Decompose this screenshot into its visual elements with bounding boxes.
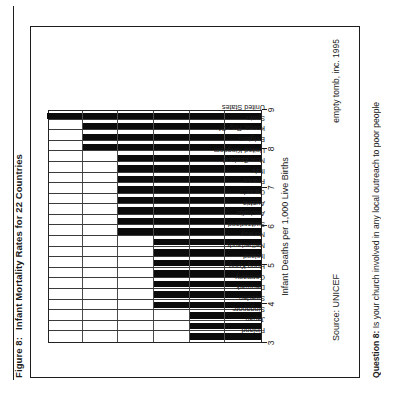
category-label-text: Netherlands	[226, 241, 265, 250]
axis-tick-label: 4	[266, 302, 276, 307]
question-caption: Question 8: Is your church involved in a…	[371, 0, 381, 378]
category-label-text: Australia	[237, 209, 265, 218]
gridline-vertical	[49, 277, 261, 278]
gridline-vertical	[49, 203, 261, 204]
rotated-figure-container: Figure 8:Infant Mortality Rates for 22 C…	[9, 0, 411, 384]
gridline-vertical	[49, 182, 261, 183]
category-label-text: Denmark	[236, 283, 265, 292]
gridline-vertical	[49, 193, 261, 194]
credit-note: empty tomb, inc. 1995	[331, 39, 341, 123]
category-label-text: Switzerland	[228, 220, 265, 229]
gridline-vertical	[49, 235, 261, 236]
axis-tick-label: 8	[266, 146, 276, 151]
gridline-vertical	[49, 288, 261, 289]
figure-title-text: Infant Mortality Rates for 22 Countries	[13, 154, 24, 330]
gridline-horizontal	[153, 111, 154, 342]
gridline-vertical	[49, 256, 261, 257]
bar	[118, 229, 261, 236]
question-text: Is your church involved in any local out…	[371, 102, 381, 328]
axis-tick-label: 6	[266, 224, 276, 229]
category-label-text: United Kingdom	[214, 146, 265, 155]
category-label-text: Singapore	[232, 305, 265, 314]
axis-tick-label: 3	[266, 341, 276, 346]
category-label-text: Germany	[235, 273, 265, 282]
gridline-vertical	[49, 119, 261, 120]
gridline-vertical	[49, 214, 261, 215]
question-label: Question 8:	[371, 331, 381, 378]
gridline-vertical	[49, 320, 261, 321]
gridline-vertical	[49, 309, 261, 310]
figure-box: FinlandJapanSingaporeSwedenDenmarkGerman…	[30, 26, 360, 378]
gridline-vertical	[49, 330, 261, 331]
gridline-horizontal	[82, 111, 83, 342]
category-label-text: Korea, Rep Of	[219, 124, 265, 133]
category-label-text: Hong Kong	[229, 262, 265, 271]
figure-title: Figure 8:Infant Mortality Rates for 22 C…	[13, 154, 24, 378]
gridline-vertical	[49, 299, 261, 300]
gridline-horizontal	[189, 111, 190, 342]
category-label-text: United States	[222, 103, 265, 112]
gridline-vertical	[49, 172, 261, 173]
source-note: Source: UNICEF	[331, 274, 341, 341]
value-axis-title: Infant Deaths per 1,000 Live Births	[280, 110, 290, 343]
axis-tick-label: 9	[266, 108, 276, 113]
axis-tick-label: 7	[266, 185, 276, 190]
value-axis: 3456789	[262, 110, 278, 343]
axis-tick-label: 5	[266, 263, 276, 268]
figure-number: Figure 8:	[13, 337, 24, 378]
scanned-page: Figure 8:Infant Mortality Rates for 22 C…	[0, 0, 411, 393]
category-label-text: New Zealand	[223, 156, 265, 165]
gridline-horizontal	[117, 111, 118, 342]
gridline-vertical	[49, 140, 261, 141]
